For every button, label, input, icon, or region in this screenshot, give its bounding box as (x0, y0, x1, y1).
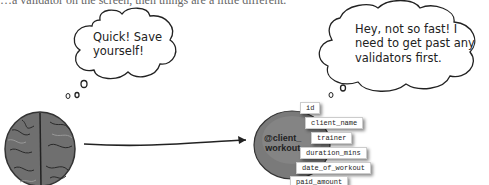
bubble-dot-brain (66, 94, 70, 99)
field-tag-trainer: trainer (311, 132, 352, 144)
field-tag-duration-mins: duration_mins (300, 147, 367, 159)
bubble-right-line2: need to get past any (355, 36, 475, 50)
bubble-right-line1: Hey, not so fast! I (355, 22, 475, 36)
bubble-left-line1: Quick! Save (93, 30, 162, 44)
field-tag-client-name: client_name (305, 117, 363, 129)
bubble-text-right: Hey, not so fast! I need to get past any… (355, 22, 475, 65)
bubble-right-line3: validators first. (355, 51, 475, 65)
object-label-line2: workout (264, 144, 301, 154)
field-tag-date-of-workout: date_of_workout (296, 162, 371, 174)
arrow-right-icon (84, 136, 246, 145)
field-tag-id: id (300, 102, 320, 114)
bubble-text-left: Quick! Save yourself! (93, 30, 162, 59)
bubble-left-line2: yourself! (93, 44, 162, 58)
bubble-dot-object (329, 93, 333, 98)
field-tag-paid-amount: paid_amount (290, 176, 348, 185)
brain-icon (5, 112, 75, 185)
object-label: @client_ workout (264, 134, 301, 154)
